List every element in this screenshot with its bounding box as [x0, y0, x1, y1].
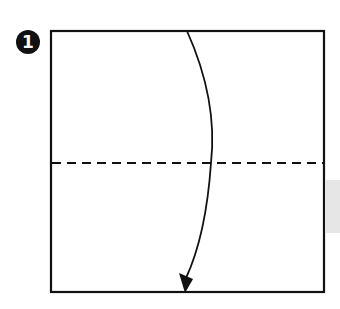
- step-number: 1: [22, 32, 34, 52]
- paper-square: [51, 31, 324, 292]
- step-number-badge: 1: [16, 30, 40, 54]
- origami-step-diagram: 1: [0, 0, 340, 309]
- side-tab-edge: [325, 180, 340, 233]
